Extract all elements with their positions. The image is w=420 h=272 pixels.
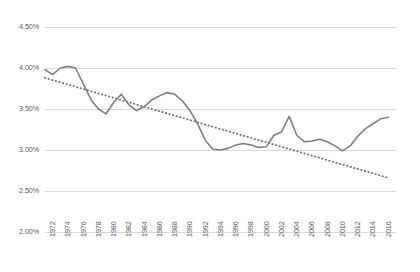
x-axis-tick-label: 1972	[48, 221, 57, 237]
x-axis-tick-label: 2002	[277, 221, 286, 237]
x-axis-tick-label: 2008	[323, 221, 332, 237]
y-axis-tick-label: 4.50%	[3, 22, 39, 31]
x-axis-tick-label: 1996	[231, 221, 240, 237]
y-axis-tick-label: 3.00%	[3, 145, 39, 154]
x-axis-tick-label: 1982	[124, 221, 133, 237]
x-axis-tick-label: 1978	[94, 221, 103, 237]
chart-container: 4.50%4.00%3.50%3.00%2.50%2.00% 197219741…	[0, 0, 420, 272]
x-axis-tick-label: 2004	[292, 221, 301, 237]
x-axis-tick-label: 1976	[79, 221, 88, 237]
x-axis-tick-label: 2000	[262, 221, 271, 237]
y-axis-tick-label: 4.00%	[3, 63, 39, 72]
x-axis-tick-label: 1988	[170, 221, 179, 237]
x-axis-tick-label: 2016	[384, 221, 393, 237]
x-axis-tick-label: 1994	[216, 221, 225, 237]
x-axis-tick-label: 2014	[368, 221, 377, 237]
x-axis-tick-label: 1974	[63, 221, 72, 237]
x-axis-tick-label: 2012	[353, 221, 362, 237]
y-axis-tick-label: 2.00%	[3, 227, 39, 236]
x-axis-tick-label: 1990	[185, 221, 194, 237]
x-axis-tick-label: 1992	[201, 221, 210, 237]
y-axis-tick-label: 2.50%	[3, 186, 39, 195]
x-axis-tick-label: 1984	[140, 221, 149, 237]
trendline-segment	[45, 78, 388, 178]
gridlines	[45, 27, 396, 232]
y-axis-tick-label: 3.50%	[3, 104, 39, 113]
x-axis-tick-label: 2010	[338, 221, 347, 237]
trendline	[45, 78, 388, 178]
x-axis-tick-label: 1998	[246, 221, 255, 237]
x-axis-tick-label: 2006	[307, 221, 316, 237]
x-axis-tick-label: 1980	[109, 221, 118, 237]
x-axis-tick-label: 1986	[155, 221, 164, 237]
